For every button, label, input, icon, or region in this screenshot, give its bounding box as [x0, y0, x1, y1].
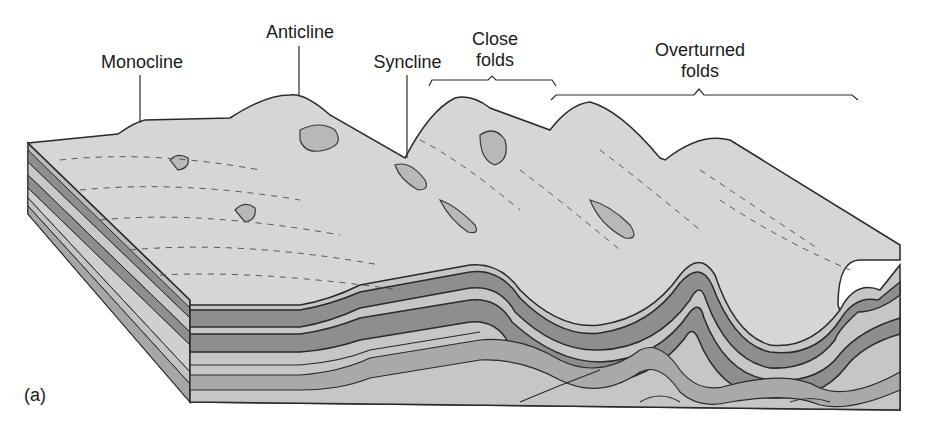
- panel-label: (a): [24, 385, 46, 406]
- syncline-label: Syncline: [360, 52, 455, 73]
- overturned-folds-label-line1: Overturned: [640, 40, 760, 61]
- close-folds-brace: [429, 76, 556, 86]
- close-folds-label-line1: Close: [460, 29, 530, 50]
- anticline-label: Anticline: [250, 22, 350, 43]
- overturned-folds-label-line2: folds: [640, 61, 760, 82]
- monocline-label: Monocline: [87, 52, 197, 73]
- overturned-folds-brace: [551, 89, 858, 100]
- close-folds-label-line2: folds: [460, 50, 530, 71]
- close-folds-label: Close folds: [460, 29, 530, 71]
- overturned-folds-label: Overturned folds: [640, 40, 760, 82]
